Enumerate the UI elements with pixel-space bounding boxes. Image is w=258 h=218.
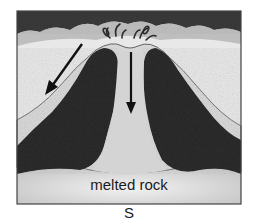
figure-caption: S (0, 204, 258, 218)
volcano-diagram: melted rock S (0, 0, 258, 218)
melted-rock-label: melted rock (0, 176, 258, 193)
